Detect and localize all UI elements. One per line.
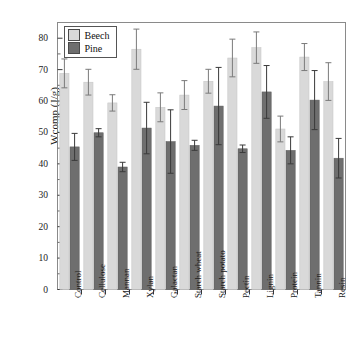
bar-beech	[228, 58, 237, 290]
x-tick-label: Control	[73, 270, 83, 298]
bar-beech	[132, 49, 141, 289]
x-tick-label: Starch potato	[217, 250, 227, 298]
x-tick-label: Lignin	[265, 274, 275, 298]
x-tick-label: Tannin	[313, 273, 323, 298]
x-tick-label: Protein	[289, 272, 299, 298]
bar-beech	[108, 103, 117, 290]
bar-beech	[180, 95, 189, 289]
x-tick-label: Xylan	[145, 276, 155, 298]
plot-area	[0, 0, 359, 360]
x-tick-label: Resin	[337, 277, 347, 298]
chart-legend: BeechPine	[64, 26, 117, 58]
bar-pine	[286, 150, 295, 289]
bar-beech	[156, 107, 165, 289]
legend-item-pine: Pine	[68, 42, 110, 55]
bar-beech	[324, 82, 333, 290]
bar-beech	[276, 129, 285, 290]
legend-label: Pine	[85, 43, 103, 54]
legend-label: Beech	[85, 30, 110, 41]
bar-beech	[84, 82, 93, 289]
bar-pine	[70, 147, 79, 290]
legend-swatch-icon	[68, 42, 80, 54]
bar-pine	[262, 92, 271, 290]
bar-beech	[60, 73, 69, 289]
legend-item-beech: Beech	[68, 29, 110, 42]
bar-beech	[300, 57, 309, 289]
x-tick-label: Cellulose	[97, 264, 107, 298]
x-tick-label: Starch wheat	[193, 251, 203, 298]
x-tick-label: Pectin	[241, 275, 251, 298]
legend-swatch-icon	[68, 29, 80, 41]
bar-beech	[204, 81, 213, 289]
x-tick-label: Galactan	[169, 266, 179, 298]
x-tick-label: Mannan	[121, 268, 131, 298]
bar-pine	[238, 149, 247, 290]
bar-beech	[252, 48, 261, 290]
chart-figure: Wcomp (J/g) 01020304050607080 ControlCel…	[0, 0, 359, 360]
